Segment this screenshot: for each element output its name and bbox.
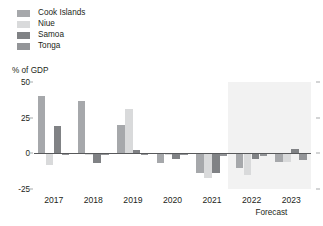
bar-group: [236, 82, 268, 189]
legend-item: Samoa: [17, 30, 85, 40]
bar-samoa: [54, 126, 62, 153]
bar-niue: [46, 153, 54, 164]
legend-label: Cook Islands: [38, 9, 85, 17]
y-axis-tick-mark: [29, 189, 33, 190]
bar-group: [117, 82, 149, 189]
bar-cook-islands: [117, 125, 125, 154]
bar-cook-islands: [38, 96, 46, 153]
bar-cook-islands: [275, 153, 283, 162]
forecast-note-label: Forecast: [255, 208, 287, 217]
bar-cook-islands: [196, 153, 204, 173]
x-axis-label: 2019: [123, 195, 142, 205]
x-axis-label: 2020: [163, 195, 182, 205]
bar-samoa: [172, 153, 180, 159]
y-axis-tick-mark: [29, 117, 33, 118]
bar-group: [157, 82, 189, 189]
bar-niue: [244, 153, 252, 174]
x-axis-label: 2022: [242, 195, 261, 205]
legend-swatch-icon: [17, 10, 30, 17]
y-axis-title: % of GDP: [12, 66, 48, 75]
bar-samoa: [252, 153, 260, 159]
bar-group: [275, 82, 307, 189]
legend-item: Cook Islands: [17, 8, 85, 18]
y-axis-tick-mark-right: [316, 82, 320, 83]
bar-niue: [204, 153, 212, 177]
bar-samoa: [93, 153, 101, 163]
legend-swatch-icon: [17, 21, 30, 28]
y-axis-tick-mark: [29, 153, 33, 154]
x-axis-label: 2021: [203, 195, 222, 205]
bar-cook-islands: [78, 101, 86, 154]
bar-group: [78, 82, 110, 189]
x-axis-label: 2017: [44, 195, 63, 205]
plot-area: -2502550: [34, 82, 311, 189]
legend-item: Tonga: [17, 41, 85, 51]
legend-swatch-icon: [17, 32, 30, 39]
y-axis-tick-mark-right: [316, 153, 320, 154]
legend-swatch-icon: [17, 43, 30, 50]
bar-group: [38, 82, 70, 189]
zero-axis-line: [34, 153, 311, 154]
chart-legend: Cook IslandsNiueSamoaTonga: [17, 8, 85, 52]
chart-root: Cook IslandsNiueSamoaTonga % of GDP -250…: [0, 0, 323, 226]
bar-niue: [125, 109, 133, 153]
bar-cook-islands: [236, 153, 244, 167]
y-axis-tick-mark: [29, 82, 33, 83]
legend-label: Samoa: [38, 31, 64, 39]
legend-item: Niue: [17, 19, 85, 29]
x-axis-label: 2018: [84, 195, 103, 205]
bar-group: [196, 82, 228, 189]
bar-niue: [283, 153, 291, 162]
bar-tonga: [299, 153, 307, 160]
y-axis-tick-mark-right: [316, 117, 320, 118]
bar-cook-islands: [157, 153, 165, 163]
legend-label: Tonga: [38, 42, 60, 50]
y-axis-tick-mark-right: [316, 189, 320, 190]
bar-samoa: [212, 153, 220, 173]
x-axis-label: 2023: [282, 195, 301, 205]
legend-label: Niue: [38, 20, 55, 28]
